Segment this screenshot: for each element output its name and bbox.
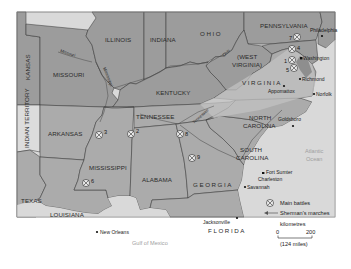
battle-2 bbox=[127, 130, 134, 137]
svg-text:2: 2 bbox=[136, 128, 139, 134]
label-illinois: ILLINOIS bbox=[105, 36, 131, 43]
label-south-carolina-1: SOUTH bbox=[240, 146, 262, 153]
battle-5 bbox=[290, 64, 297, 71]
legend-shermans-marches: Sherman's marches bbox=[280, 210, 330, 216]
label-west-virginia-1: (WEST bbox=[237, 53, 258, 60]
city-charleston: Charleston bbox=[258, 176, 282, 182]
label-florida: FLORIDA bbox=[208, 227, 246, 234]
label-indian-territory: INDIAN TERRITORY bbox=[23, 88, 30, 148]
battle-4 bbox=[288, 45, 295, 52]
battle-9 bbox=[188, 154, 195, 161]
city-savannah: Savannah bbox=[247, 184, 270, 190]
battle-6 bbox=[82, 179, 89, 186]
city-new-orleans: New Orleans bbox=[100, 229, 129, 235]
svg-text:6: 6 bbox=[91, 178, 94, 184]
battle-3 bbox=[95, 131, 102, 138]
city-jacksonville: Jacksonville bbox=[203, 219, 230, 225]
label-mississippi: MISSISSIPPI bbox=[89, 164, 127, 171]
label-texas: TEXAS bbox=[21, 197, 42, 204]
city-washington: Washington bbox=[303, 55, 329, 61]
battle-8 bbox=[176, 130, 183, 137]
label-louisiana: LOUISIANA bbox=[50, 211, 85, 218]
label-virginia: VIRGINIA bbox=[242, 79, 282, 86]
legend-scale-end: 200 bbox=[306, 229, 315, 235]
label-atlantic-1: Atlantic bbox=[305, 148, 324, 154]
city-richmond: Richmond bbox=[302, 76, 325, 82]
label-alabama: ALABAMA bbox=[142, 176, 173, 183]
label-pennsylvania: PENNSYLVANIA bbox=[260, 22, 309, 29]
label-atlantic-2: Ocean bbox=[306, 156, 322, 162]
label-georgia: GEORGIA bbox=[193, 181, 233, 188]
label-ohio: OHIO bbox=[200, 30, 222, 37]
battle-1 bbox=[288, 56, 295, 63]
svg-text:8: 8 bbox=[185, 131, 188, 137]
label-arkansas: ARKANSAS bbox=[48, 130, 83, 137]
label-missouri: MISSOURI bbox=[53, 71, 85, 78]
battle-7 bbox=[293, 33, 300, 40]
label-west-virginia-2: VIRGINIA) bbox=[232, 61, 262, 68]
city-norfolk: Norfolk bbox=[316, 91, 332, 97]
svg-text:7: 7 bbox=[289, 35, 292, 41]
label-north-carolina-1: NORTH bbox=[249, 114, 271, 121]
label-gulf-of-mexico: Gulf of Mexico bbox=[132, 240, 168, 246]
label-kentucky: KENTUCKY bbox=[156, 89, 191, 96]
svg-text:4: 4 bbox=[297, 45, 300, 51]
label-indiana: INDIANA bbox=[150, 36, 177, 43]
city-fort-sumter: Fort Sumter bbox=[266, 169, 293, 175]
legend-battle-icon bbox=[266, 199, 273, 206]
svg-text:1: 1 bbox=[284, 58, 287, 64]
legend-main-battles: Main battles bbox=[280, 200, 310, 206]
city-appomattox: Appomattox bbox=[268, 88, 295, 94]
label-kansas: KANSAS bbox=[24, 54, 31, 80]
legend-scale-miles: (124 miles) bbox=[280, 241, 308, 247]
legend-scale-start: 0 bbox=[276, 229, 279, 235]
svg-text:9: 9 bbox=[197, 154, 200, 160]
label-south-carolina-2: CAROLINA bbox=[236, 154, 269, 161]
label-tennessee: TENNESSEE bbox=[136, 113, 174, 120]
legend-scale-title: kilometres bbox=[280, 221, 306, 227]
civil-war-map: KANSAS INDIAN TERRITORY MISSOURI ILLINOI… bbox=[0, 0, 351, 269]
city-philadelphia: Philadelphia bbox=[310, 27, 337, 33]
svg-text:3: 3 bbox=[104, 129, 107, 135]
city-goldsboro: Goldsboro bbox=[278, 116, 301, 122]
svg-text:5: 5 bbox=[286, 67, 289, 73]
label-north-carolina-2: CAROLINA bbox=[243, 122, 276, 129]
